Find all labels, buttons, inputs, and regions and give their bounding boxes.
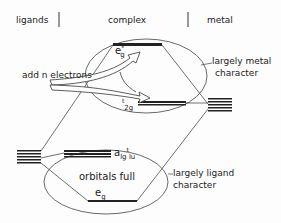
a1g-sub: lg bbox=[120, 153, 126, 161]
arrow-fork bbox=[120, 72, 136, 92]
header-metal: metal bbox=[207, 15, 233, 25]
a1g-t1u-level-mid bbox=[64, 153, 111, 155]
eg-star-label: e*g bbox=[115, 46, 125, 57]
eg-label: eg bbox=[95, 188, 106, 199]
eg-star-sup: * bbox=[121, 44, 124, 51]
a1g-t1u-level-bottom bbox=[64, 156, 111, 158]
ligand-character-ellipse bbox=[44, 150, 168, 214]
metal-levels bbox=[208, 98, 232, 112]
ligand-character-line2: character bbox=[173, 180, 216, 190]
eg-sub: g bbox=[101, 193, 105, 201]
a1g-t1u-label: algtlu bbox=[114, 148, 135, 159]
t2g-label: t2g bbox=[122, 99, 133, 110]
ligand-character-line1: largely ligand bbox=[173, 168, 234, 178]
eg-star-sub: g bbox=[120, 51, 124, 59]
t2g-level-bottom bbox=[138, 104, 186, 106]
t2g-level-top bbox=[138, 101, 186, 103]
metal-character-line1: largely metal bbox=[212, 56, 271, 66]
mo-diagram: ligands complex metal add n electrons la… bbox=[0, 0, 281, 223]
metal-leader bbox=[201, 63, 212, 65]
orbitals-full-label: orbitals full bbox=[79, 172, 135, 182]
header-ligands: ligands bbox=[16, 15, 48, 25]
t1u-t: t bbox=[127, 146, 129, 153]
add-electrons-label: add n electrons bbox=[22, 70, 92, 80]
eg-level bbox=[88, 200, 137, 202]
metal-character-line2: character bbox=[215, 68, 258, 78]
t1u-sub: lu bbox=[129, 153, 135, 161]
a1g-t1u-level-top bbox=[64, 150, 111, 152]
header-complex: complex bbox=[108, 15, 146, 25]
t2g-t: t bbox=[122, 97, 124, 104]
ligand-levels bbox=[17, 150, 41, 164]
arrow-to-eg-star bbox=[50, 52, 140, 85]
diagram-lines bbox=[0, 0, 281, 223]
t2g-sub: 2g bbox=[124, 104, 133, 112]
